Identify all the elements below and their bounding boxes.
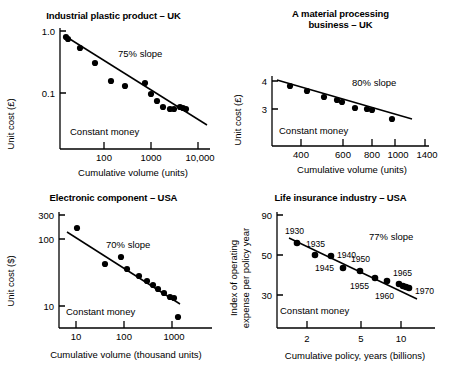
x-tick-label: 2 bbox=[304, 333, 309, 344]
chart-panel-electronic-component-usa: Electronic component – USA Unit cost ($)… bbox=[0, 186, 227, 371]
chart-panel-industrial-plastic-uk: Industrial plastic product – UK Unit cos… bbox=[0, 0, 227, 186]
x-tick-label: 1000 bbox=[163, 331, 184, 342]
chart-panel-material-processing-uk: A material processing business – UK Unit… bbox=[227, 0, 454, 186]
data-point bbox=[328, 253, 335, 260]
x-axis-ticks bbox=[104, 142, 198, 149]
x-tick-label: 1000 bbox=[140, 152, 161, 163]
chart-plot-area: Unit cost (£) 1.0 0.1 100 1000 10,000 Cu… bbox=[0, 24, 227, 184]
constant-money-note: Constant money bbox=[70, 126, 139, 137]
constant-money-note: Constant money bbox=[66, 306, 135, 317]
data-point bbox=[339, 99, 345, 105]
y-tick-label: 90 bbox=[261, 210, 272, 221]
slope-annotation: 75% slope bbox=[118, 48, 162, 59]
x-axis-title: Cumulative policy, years (billions) bbox=[285, 350, 425, 361]
data-point bbox=[161, 290, 167, 296]
y-axis-ticks bbox=[272, 81, 278, 109]
chart-plot-area: Unit cost (£) 4 3 400 600 800 1000 1400 … bbox=[227, 40, 454, 186]
x-tick-label: 600 bbox=[335, 149, 351, 160]
data-point bbox=[287, 83, 293, 89]
y-axis-title: Unit cost (£) bbox=[232, 94, 243, 145]
x-tick-label: 1000 bbox=[387, 149, 408, 160]
chart-title: Life insurance industry – USA bbox=[227, 192, 454, 203]
data-point bbox=[124, 266, 130, 272]
slope-annotation: 80% slope bbox=[352, 77, 396, 88]
chart-title: A material processing business – UK bbox=[227, 8, 454, 30]
point-label-1950: 1950 bbox=[351, 254, 370, 264]
data-point bbox=[102, 261, 108, 267]
data-point bbox=[389, 116, 395, 122]
y-tick-label: 300 bbox=[38, 210, 54, 221]
y-tick-label: 1.0 bbox=[42, 26, 55, 37]
x-axis-title: Cumulative volume (thousand units) bbox=[50, 349, 202, 360]
y-axis-ticks bbox=[277, 215, 283, 295]
y-tick-label: 100 bbox=[38, 234, 54, 245]
data-point bbox=[175, 314, 181, 320]
chart-plot-area: Unit cost ($) 300 100 10 10 100 1000 Cum… bbox=[0, 206, 227, 368]
data-point bbox=[155, 286, 161, 292]
y-tick-label: 10 bbox=[43, 301, 54, 312]
data-points bbox=[287, 83, 395, 122]
y-axis-ticks bbox=[59, 215, 65, 306]
chart-title-line: business – UK bbox=[227, 19, 454, 30]
chart-title: Industrial plastic product – UK bbox=[0, 10, 227, 21]
data-point bbox=[183, 106, 189, 112]
figure-panel-grid: Industrial plastic product – UK Unit cos… bbox=[0, 0, 454, 371]
point-label-1945: 1945 bbox=[315, 263, 334, 273]
y-tick-label: 0.1 bbox=[42, 88, 55, 99]
data-point bbox=[321, 94, 327, 100]
data-point bbox=[142, 80, 148, 86]
data-point bbox=[312, 252, 319, 259]
chart-panel-life-insurance-usa: Life insurance industry – USA Index of o… bbox=[227, 186, 454, 371]
x-tick-label: 10 bbox=[396, 333, 407, 344]
x-axis-title: Cumulative volume (units) bbox=[297, 164, 407, 175]
data-point bbox=[294, 240, 301, 247]
data-point bbox=[92, 60, 98, 66]
chart-title-line: A material processing bbox=[227, 8, 454, 19]
chart-title: Electronic component – USA bbox=[0, 192, 227, 203]
point-label-1955: 1955 bbox=[350, 281, 369, 291]
data-point bbox=[148, 91, 154, 97]
x-tick-label: 10 bbox=[71, 331, 82, 342]
data-point bbox=[74, 225, 80, 231]
data-points bbox=[63, 34, 189, 112]
point-label-1935: 1935 bbox=[306, 239, 325, 249]
data-point bbox=[77, 45, 83, 51]
y-tick-label: 3 bbox=[262, 104, 267, 115]
data-point bbox=[108, 78, 114, 84]
data-point bbox=[136, 273, 142, 279]
x-tick-label: 100 bbox=[96, 152, 112, 163]
data-point bbox=[154, 98, 160, 104]
y-tick-label: 50 bbox=[261, 250, 272, 261]
point-label-1960: 1960 bbox=[375, 291, 394, 301]
data-point bbox=[144, 278, 150, 284]
data-point bbox=[150, 282, 156, 288]
data-point bbox=[372, 275, 379, 282]
chart-plot-area: Index of operating expense per policy ye… bbox=[227, 206, 454, 368]
data-point bbox=[369, 107, 375, 113]
x-axis-ticks bbox=[307, 321, 401, 328]
constant-money-note: Constant money bbox=[280, 305, 349, 316]
x-axis-ticks bbox=[301, 139, 425, 146]
x-tick-label: 5 bbox=[358, 333, 363, 344]
data-point bbox=[384, 278, 391, 285]
x-tick-label: 10,000 bbox=[185, 152, 214, 163]
x-tick-label: 100 bbox=[116, 331, 132, 342]
data-point bbox=[357, 268, 364, 275]
data-point bbox=[171, 295, 177, 301]
x-axis-title: Cumulative volume (units) bbox=[78, 167, 188, 178]
data-point bbox=[122, 83, 128, 89]
y-axis-title-line: Index of operating bbox=[228, 240, 239, 316]
point-label-1970: 1970 bbox=[415, 286, 434, 296]
data-point bbox=[65, 36, 71, 42]
y-tick-label: 4 bbox=[262, 76, 267, 87]
x-tick-label: 1400 bbox=[416, 149, 437, 160]
y-axis-ticks bbox=[60, 31, 66, 93]
data-point bbox=[160, 104, 166, 110]
data-point bbox=[171, 106, 177, 112]
data-point bbox=[304, 88, 310, 94]
x-axis-ticks bbox=[76, 321, 172, 328]
y-tick-label: 30 bbox=[261, 290, 272, 301]
x-tick-label: 400 bbox=[293, 149, 309, 160]
constant-money-note: Constant money bbox=[279, 125, 348, 136]
slope-annotation: 70% slope bbox=[106, 239, 150, 250]
